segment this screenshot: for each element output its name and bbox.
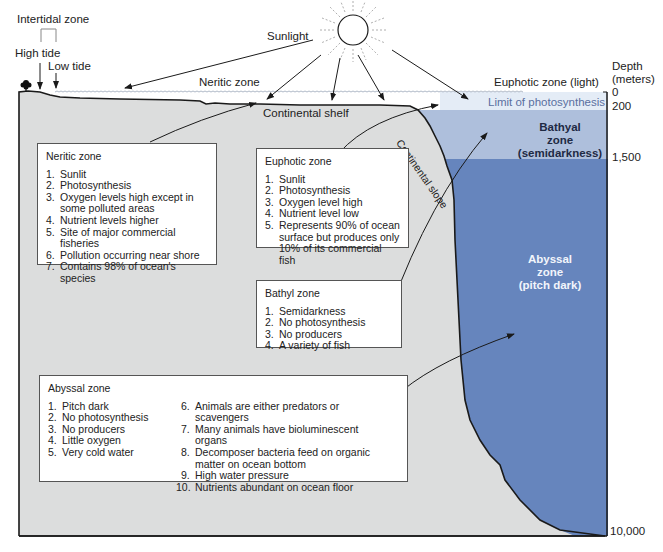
depth-tick-1500: 1,500 — [612, 151, 641, 163]
bathyl-box-title: Bathyl zone — [265, 288, 393, 300]
limit-of-photosynthesis-label: Limit of photosynthesis — [488, 96, 605, 109]
list-item: 5.Very cold water — [48, 447, 176, 459]
euphotic-zone-label: Euphotic zone (light) — [494, 76, 599, 89]
high-tide-label: High tide — [15, 47, 60, 60]
low-tide-label: Low tide — [48, 60, 91, 73]
sunlight-arrow-1 — [267, 55, 321, 99]
neritic-box-title: Neritic zone — [46, 151, 208, 163]
water-surface — [55, 91, 523, 92]
bathyl-zone-box: Bathyl zone 1.Semidarkness 2.No photosyn… — [256, 280, 402, 348]
depth-tick-10000: 10,000 — [610, 525, 645, 537]
euphotic-list: 1.Sunlit 2.Photosynthesis 3.Oxygen level… — [265, 174, 400, 267]
list-item: 4.A variety of fish — [265, 340, 393, 352]
sunlight-label: Sunlight — [267, 30, 309, 43]
neritic-zone-box: Neritic zone 1.Sunlit 2.Photosynthesis 3… — [37, 143, 217, 265]
abyssal-zone-label: Abyssal zone (pitch dark) — [500, 253, 600, 292]
intertidal-bracket — [41, 29, 56, 42]
sunlight-arrow-3 — [358, 55, 384, 100]
depth-axis-title: Depth (meters) — [612, 60, 655, 86]
neritic-zone-label: Neritic zone — [199, 76, 260, 89]
ocean-zones-diagram: Intertidal zone High tide Low tide Sunli… — [0, 0, 663, 552]
list-item: 6.Animals are either predators or scaven… — [176, 401, 391, 424]
list-item: 3.Oxygen levels high except in some poll… — [46, 192, 208, 215]
shore-shrub-icon — [21, 80, 32, 92]
continental-shelf-label: Continental shelf — [263, 107, 349, 120]
list-item: 7.Contains 98% of ocean's species — [46, 261, 208, 284]
abyssal-zone-box: Abyssal zone 1.Pitch dark 2.No photosynt… — [39, 375, 408, 482]
list-item: 5.Site of major commercial fisheries — [46, 227, 208, 250]
depth-tick-0: 0 — [612, 86, 618, 98]
list-item: 5.Represents 90% of ocean surface but pr… — [265, 220, 400, 266]
bathyl-list: 1.Semidarkness 2.No photosynthesis 3.No … — [265, 306, 393, 352]
intertidal-zone-label: Intertidal zone — [17, 13, 89, 26]
neritic-list: 1.Sunlit 2.Photosynthesis 3.Oxygen level… — [46, 169, 208, 285]
bathyal-zone-label: Bathyal zone (semidarkness) — [505, 121, 615, 160]
abyssal-list-col1: 1.Pitch dark 2.No photosynthesis 3.No pr… — [48, 401, 176, 494]
sunlight-arrow-2 — [332, 58, 340, 100]
euphotic-zone-box: Euphotic zone 1.Sunlit 2.Photosynthesis … — [256, 148, 409, 248]
euphotic-box-title: Euphotic zone — [265, 156, 400, 168]
abyssal-box-title: Abyssal zone — [48, 383, 399, 395]
list-item: 8.Decomposer bacteria feed on organic ma… — [176, 447, 391, 470]
abyssal-list-col2: 6.Animals are either predators or scaven… — [176, 401, 391, 494]
sun-icon — [318, 1, 388, 62]
list-item: 7.Many animals have bioluminescent organ… — [176, 424, 391, 447]
depth-tick-200: 200 — [612, 100, 631, 112]
list-item: 10.Nutrients abundant on ocean floor — [176, 482, 391, 494]
